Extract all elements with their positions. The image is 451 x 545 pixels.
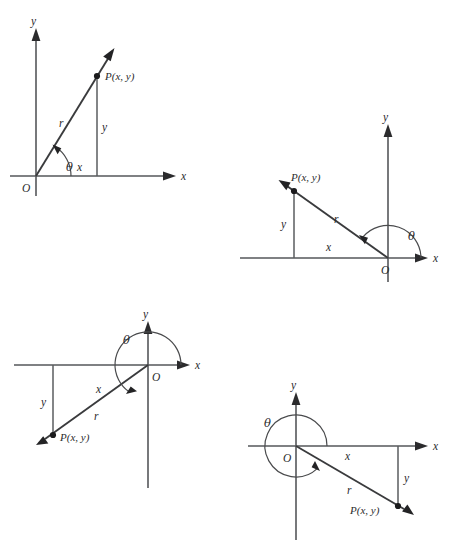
diagram-canvas: y x O P(x, y) θ r y x <box>0 0 451 545</box>
q1-theta-arrowhead <box>53 145 62 155</box>
q3-y-leg-label: y <box>40 396 47 409</box>
q1-radius-label: r <box>59 117 64 129</box>
q3-y-axis-label: y <box>142 308 149 321</box>
q2-origin-label: O <box>381 264 390 276</box>
q1-theta-label: θ <box>66 160 73 174</box>
q1-y-axis-arrowhead <box>32 28 41 41</box>
q1-x-axis-label: x <box>180 170 187 182</box>
q1-y-axis-label: y <box>30 15 37 28</box>
q4-x-axis-label: x <box>432 440 439 452</box>
q1-point-p <box>94 73 100 79</box>
q2-y-leg-label: y <box>280 218 287 231</box>
q3-radius-label: r <box>94 410 99 422</box>
q2-y-axis-arrowhead <box>384 124 393 137</box>
q3-theta-label: θ <box>123 333 130 347</box>
q4-y-leg-label: y <box>403 472 410 485</box>
q3-point-label: P(x, y) <box>59 431 90 444</box>
q4-origin-label: O <box>283 452 292 464</box>
q3-x-axis-label: x <box>194 359 201 371</box>
q1-y-leg-label: y <box>101 121 108 134</box>
q1-origin-label: O <box>22 182 31 194</box>
q4-x-leg-label: x <box>344 450 351 462</box>
q1-x-axis-arrowhead <box>163 172 176 181</box>
q2-radius-label: r <box>334 213 339 225</box>
q4-x-axis-arrowhead <box>415 442 428 451</box>
q3-origin-label: O <box>152 371 161 383</box>
q3-radius-label-x: x <box>95 383 102 395</box>
q3-radius-ray <box>45 365 148 439</box>
q4-radius-arrowhead <box>402 504 414 515</box>
q4-theta-label: θ <box>264 416 271 430</box>
q4-point-label: P(x, y) <box>349 504 380 517</box>
panel-quadrant-1: y x O P(x, y) θ r y x <box>10 15 187 196</box>
q4-y-axis-arrowhead <box>292 392 301 405</box>
polar-angle-figure: y x O P(x, y) θ r y x <box>0 0 451 545</box>
q1-point-label: P(x, y) <box>104 70 135 83</box>
q2-x-leg-label: x <box>325 241 332 253</box>
q1-x-leg-label: x <box>76 161 83 173</box>
panel-quadrant-4: y x O P(x, y) θ x y r <box>248 379 439 540</box>
q2-point-label: P(x, y) <box>290 171 321 184</box>
panel-quadrant-2: y x O P(x, y) θ r y x <box>240 111 439 282</box>
panel-quadrant-3: y x O P(x, y) θ x y r <box>14 308 201 488</box>
q4-y-axis-label: y <box>290 379 297 392</box>
q4-radius-label: r <box>347 484 352 496</box>
q3-point-p <box>50 432 56 438</box>
q3-x-axis-arrowhead <box>177 361 190 370</box>
q2-x-axis-arrowhead <box>415 254 428 263</box>
q2-radius-arrowhead <box>279 180 291 190</box>
q4-point-p <box>395 503 401 509</box>
q2-y-axis-label: y <box>382 111 389 124</box>
q2-x-axis-label: x <box>432 252 439 264</box>
q2-theta-label: θ <box>408 229 415 243</box>
q2-point-p <box>291 188 297 194</box>
q1-radius-arrowhead <box>103 48 114 61</box>
